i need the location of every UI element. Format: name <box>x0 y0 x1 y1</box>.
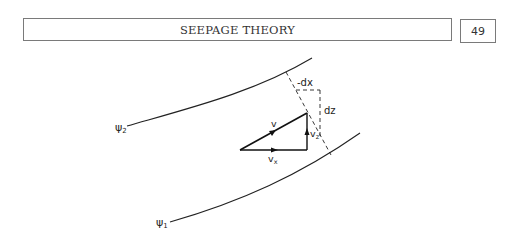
streamline-psi1 <box>170 133 360 222</box>
seepage-velocity-diagram: v vx vz -dx dz ψ2 ψ1 <box>0 0 524 237</box>
arrow-vz-icon <box>305 128 310 135</box>
label-dx: -dx <box>297 77 313 88</box>
label-dz: dz <box>324 105 336 116</box>
arrow-vx-icon <box>271 148 278 153</box>
label-vx: vx <box>268 153 278 166</box>
label-v: v <box>271 118 277 129</box>
label-psi2: ψ2 <box>115 121 127 135</box>
streamline-psi2 <box>127 58 312 126</box>
label-vz: vz <box>310 128 320 141</box>
label-psi1: ψ1 <box>156 216 168 230</box>
